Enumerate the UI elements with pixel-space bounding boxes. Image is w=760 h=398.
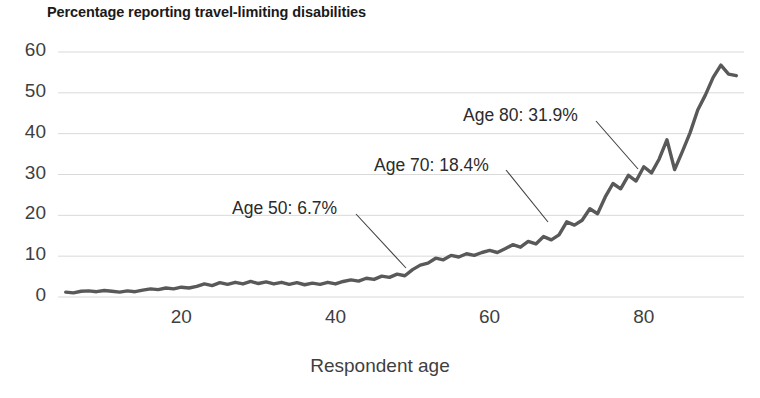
x-axis-title: Respondent age xyxy=(0,355,760,377)
annotation-leader-line xyxy=(596,121,638,169)
annotation-label-age-50: Age 50: 6.7% xyxy=(232,198,337,219)
y-axis-tick-label: 10 xyxy=(2,243,46,265)
x-axis-tick-label: 20 xyxy=(151,306,211,328)
data-line xyxy=(66,65,737,293)
x-axis-tick-label: 60 xyxy=(460,306,520,328)
x-axis-tick-label: 80 xyxy=(614,306,674,328)
y-axis-tick-label: 60 xyxy=(2,39,46,61)
y-axis-tick-label: 30 xyxy=(2,162,46,184)
chart-plot-area xyxy=(0,0,760,398)
annotation-label-age-70: Age 70: 18.4% xyxy=(374,155,489,176)
annotation-leader-line xyxy=(506,170,548,222)
y-axis-tick-label: 20 xyxy=(2,202,46,224)
annotation-leader-lines xyxy=(356,121,638,268)
annotation-leader-line xyxy=(356,214,406,268)
y-axis-tick-label: 40 xyxy=(2,121,46,143)
chart-container: Percentage reporting travel-limiting dis… xyxy=(0,0,760,398)
data-series-layer xyxy=(66,65,737,293)
y-axis-tick-label: 50 xyxy=(2,80,46,102)
y-axis-tick-label: 0 xyxy=(2,284,46,306)
annotation-label-age-80: Age 80: 31.9% xyxy=(463,105,578,126)
x-axis-tick-label: 40 xyxy=(305,306,365,328)
